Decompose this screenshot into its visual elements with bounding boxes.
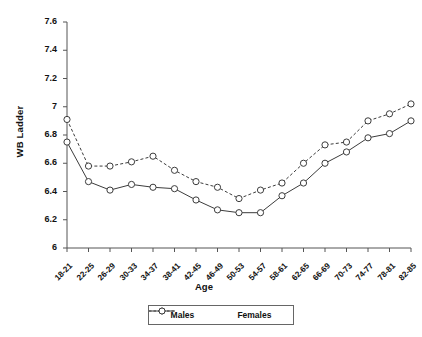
data-point-males (343, 149, 349, 155)
data-point-males (365, 135, 371, 141)
data-point-females (64, 116, 70, 122)
data-point-females (150, 153, 156, 159)
legend-item-females[interactable]: Females (237, 310, 271, 320)
data-point-males (300, 180, 306, 186)
data-point-males (85, 179, 91, 185)
data-point-males (236, 210, 242, 216)
data-point-females (193, 179, 199, 185)
legend-swatch-dashed-line-icon (149, 306, 175, 316)
data-point-males (64, 139, 70, 145)
data-point-females (257, 187, 263, 193)
data-point-females (128, 159, 134, 165)
data-point-females (107, 163, 113, 169)
data-point-males (107, 187, 113, 193)
data-point-females (214, 184, 220, 190)
data-point-males (150, 184, 156, 190)
data-point-females (236, 195, 242, 201)
data-point-males (386, 130, 392, 136)
data-point-males (408, 118, 414, 124)
data-point-females (300, 160, 306, 166)
data-point-females (85, 163, 91, 169)
chart-container: WB Ladder Age 66.26.46.66.877.27.47.6 18… (0, 0, 422, 337)
data-point-females (343, 139, 349, 145)
plot-area (0, 0, 422, 337)
data-point-males (279, 193, 285, 199)
data-point-males (257, 210, 263, 216)
series-line-females (67, 104, 411, 199)
data-point-males (214, 207, 220, 213)
chart-legend: Males Females (148, 305, 294, 325)
data-point-females (386, 111, 392, 117)
data-point-females (408, 101, 414, 107)
data-point-females (365, 118, 371, 124)
data-point-males (193, 197, 199, 203)
data-point-females (171, 167, 177, 173)
data-point-males (128, 181, 134, 187)
data-point-females (322, 142, 328, 148)
data-point-females (279, 180, 285, 186)
data-point-males (171, 186, 177, 192)
legend-label-females: Females (237, 310, 271, 320)
data-point-males (322, 160, 328, 166)
